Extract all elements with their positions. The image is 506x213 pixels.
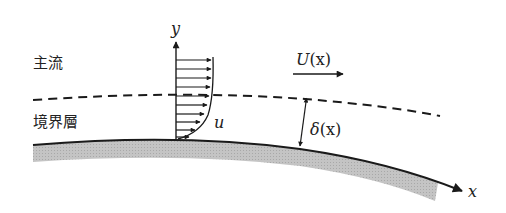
velocity-profile-arrows xyxy=(176,60,211,137)
boundary-layer-edge xyxy=(33,95,440,116)
y-axis-label: y xyxy=(170,19,181,38)
outer-velocity-argument: (x) xyxy=(309,50,331,69)
wall-surface xyxy=(33,140,438,201)
outer-velocity-label: U(x) xyxy=(296,50,331,69)
outer-velocity-symbol: U xyxy=(296,50,310,69)
thickness-label: δ(x) xyxy=(310,120,341,139)
thickness-arrow xyxy=(300,102,306,146)
thickness-symbol: δ xyxy=(310,120,320,139)
x-axis-label: x xyxy=(468,182,477,201)
main-flow-label: 主流 xyxy=(33,54,63,72)
local-velocity-label: u xyxy=(214,113,224,132)
boundary-layer-diagram: 主流 境界層 y x u U(x) δ(x) xyxy=(0,0,506,213)
boundary-layer-label: 境界層 xyxy=(33,113,78,131)
thickness-argument: (x) xyxy=(320,120,342,139)
